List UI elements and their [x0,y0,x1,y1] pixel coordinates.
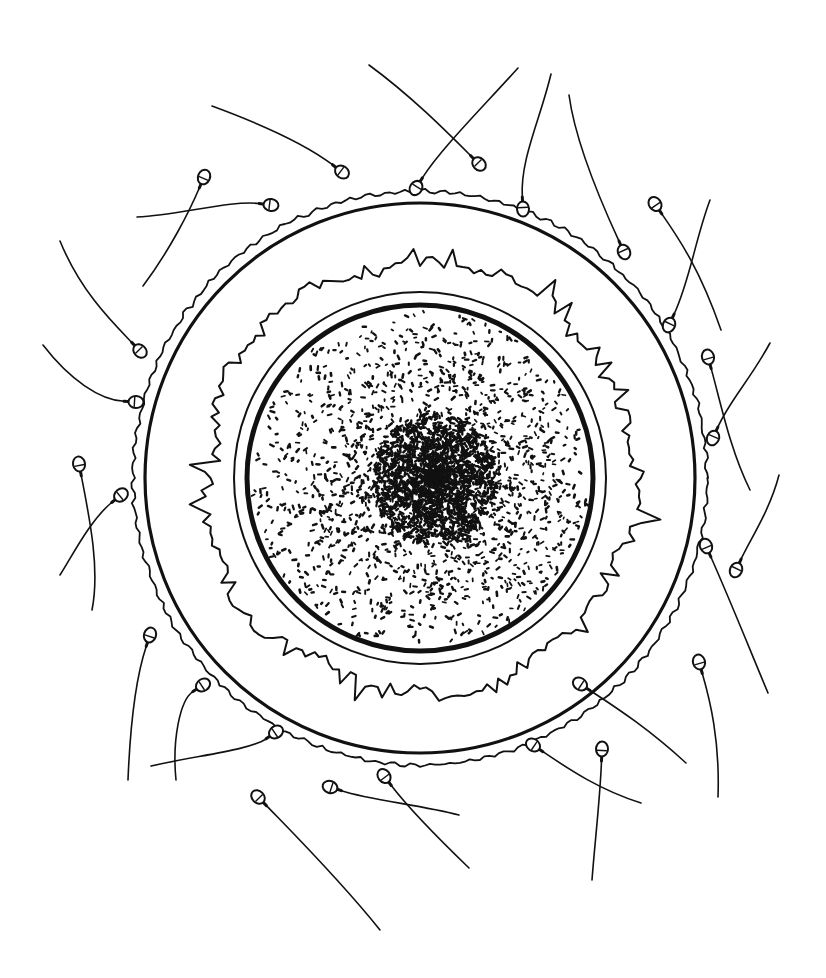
sperm-cell [128,626,158,780]
sperm-tail [151,739,266,766]
sperm-cell [60,241,150,361]
sperm-head [700,348,716,366]
sperm-tail [592,761,602,880]
sperm-cell [517,74,551,217]
sperm-tail [128,646,146,780]
sperm-tail [569,95,619,241]
sperm-tail [391,786,469,869]
sperm-tail [60,241,132,342]
sperm-tail [212,106,333,165]
sperm-cell [72,455,95,610]
sperm-cell [248,787,380,930]
sperm-head [196,168,213,186]
sperm-head [697,537,714,556]
sperm-cell [727,475,779,579]
sperm-cell [569,95,633,261]
sperm-cell [700,348,750,490]
sperm-head [596,741,609,756]
sperm-cell [660,200,710,334]
sperm-tail [674,200,710,314]
sperm-tail [175,692,193,780]
sperm-cell [151,723,286,766]
sperm-tail [137,203,259,217]
sperm-cell [137,198,279,217]
sperm-head [193,676,212,694]
sperm-head [704,429,721,448]
sperm-tail [43,345,124,401]
sperm-head [570,675,589,693]
sperm-head [263,198,279,212]
sperm-cell [570,675,686,763]
dense-nucleus-core [371,414,500,546]
sperm-head [615,243,632,262]
sperm-tail [143,188,199,286]
sperm-cell [375,766,469,868]
egg-cell-illustration [0,0,826,978]
sperm-cell [60,486,131,575]
sperm-cell [523,736,641,803]
sperm-head [691,653,707,671]
sperm-tail [711,557,768,693]
sperm-head [523,736,542,754]
sperm-head [517,201,530,217]
sperm-tail [718,343,770,427]
sperm-tail [522,74,551,197]
sperm-head [128,396,144,409]
sperm-acrosome-line [518,207,528,208]
sperm-head [407,178,425,197]
sperm-tail [702,674,718,798]
sperm-head [660,316,677,335]
sperm-cell [592,741,608,880]
sperm-cell [646,194,721,330]
sperm-cell [175,676,213,780]
sperm-tail [60,503,112,576]
sperm-tail [662,214,721,330]
sperm-cell [691,653,718,797]
sperm-head [72,455,87,472]
sperm-cell [43,345,144,408]
sperm-head [266,723,285,741]
sperm-cell [212,106,352,181]
sperm-tail [741,475,779,559]
sperm-cell [407,68,518,198]
sperm-tail [369,65,471,156]
sperm-tail [543,752,641,803]
sperm-tail [341,791,459,815]
sperm-acrosome-line [134,397,135,407]
sperm-tail [81,476,95,610]
sperm-head [321,779,339,795]
sperm-tail [266,806,380,930]
illustration-canvas [0,0,826,978]
sperm-cell [697,537,768,693]
sperm-head [142,626,158,644]
sperm-cell [143,168,212,286]
sperm-head [727,561,744,580]
